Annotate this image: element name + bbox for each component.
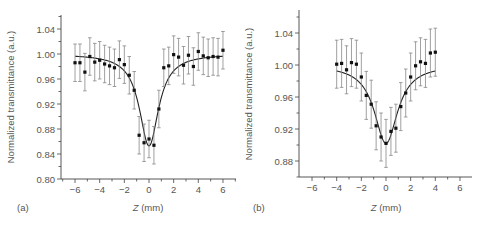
data-point xyxy=(157,90,161,128)
marker xyxy=(147,137,150,140)
marker xyxy=(157,107,160,110)
data-point xyxy=(98,42,102,80)
marker xyxy=(128,74,131,77)
data-point xyxy=(211,38,215,76)
data-point xyxy=(419,38,423,86)
y-tick-label: 0.88 xyxy=(37,124,56,135)
marker xyxy=(375,124,378,127)
x-tick-label: 2 xyxy=(171,184,176,195)
y-axis-title: Normalized transmittance (a.u.) xyxy=(243,28,254,161)
y-tick-label: 1.04 xyxy=(37,24,56,35)
marker xyxy=(335,63,338,66)
data-point xyxy=(409,53,413,101)
data-point xyxy=(88,38,92,76)
data-point xyxy=(132,72,136,110)
marker xyxy=(365,94,368,97)
data-point xyxy=(103,45,107,83)
data-point xyxy=(167,47,171,85)
y-tick-label: 0.80 xyxy=(37,174,56,185)
data-point xyxy=(113,49,117,87)
data-point xyxy=(389,107,393,155)
y-tick-label: 0.96 xyxy=(37,74,56,85)
panel-label: (b) xyxy=(253,202,265,213)
data-point xyxy=(162,49,166,87)
marker xyxy=(162,66,165,69)
marker xyxy=(78,61,81,64)
data-point xyxy=(182,47,186,85)
data-point xyxy=(206,39,210,77)
x-tick-label: 2 xyxy=(408,182,413,193)
data-point xyxy=(424,39,428,87)
x-tick-label: −6 xyxy=(307,182,318,193)
marker xyxy=(118,58,121,61)
data-point xyxy=(404,69,408,117)
x-tick-label: −4 xyxy=(331,182,342,193)
marker xyxy=(419,60,422,63)
marker xyxy=(409,75,412,78)
data-point xyxy=(399,83,403,131)
marker xyxy=(103,62,106,65)
x-axis-title: Z (mm) xyxy=(370,202,402,213)
y-tick-label: 0.88 xyxy=(275,156,294,167)
y-tick-label: 0.96 xyxy=(275,92,294,103)
figure: −6−4−202460.800.840.880.920.961.001.04No… xyxy=(0,0,484,225)
marker xyxy=(152,144,155,147)
chart-panel-b: −6−4−202460.880.920.961.001.04Normalized… xyxy=(243,10,472,213)
marker xyxy=(370,103,373,106)
marker xyxy=(212,55,215,58)
data-point xyxy=(379,113,383,161)
x-axis-title: Z (mm) xyxy=(132,202,164,213)
marker xyxy=(389,130,392,133)
data-point xyxy=(83,53,87,91)
data-point xyxy=(108,47,112,85)
marker xyxy=(404,91,407,94)
marker xyxy=(360,75,363,78)
marker xyxy=(108,64,111,67)
x-tick-label: −4 xyxy=(94,184,105,195)
data-point xyxy=(137,117,141,155)
marker xyxy=(138,134,141,137)
data-point xyxy=(142,124,146,162)
x-tick-label: 0 xyxy=(383,182,388,193)
marker xyxy=(88,55,91,58)
marker xyxy=(172,53,175,56)
x-tick-label: −2 xyxy=(356,182,367,193)
marker xyxy=(414,64,417,67)
data-point xyxy=(127,57,131,95)
data-point xyxy=(364,71,368,119)
data-point xyxy=(340,39,344,87)
data-point xyxy=(118,41,122,79)
marker xyxy=(379,135,382,138)
marker xyxy=(73,61,76,64)
marker xyxy=(434,51,437,54)
marker xyxy=(197,50,200,53)
x-tick-label: 6 xyxy=(220,184,225,195)
x-tick-label: 6 xyxy=(457,182,462,193)
data-point xyxy=(73,44,77,82)
y-tick-label: 1.04 xyxy=(275,28,294,39)
data-point xyxy=(384,119,388,167)
x-tick-label: 4 xyxy=(433,182,438,193)
panel-label: (a) xyxy=(17,202,29,213)
marker xyxy=(399,105,402,108)
marker xyxy=(98,59,101,62)
data-point xyxy=(197,33,201,71)
marker xyxy=(216,56,219,59)
marker xyxy=(83,71,86,74)
data-point xyxy=(187,37,191,75)
x-tick-label: −2 xyxy=(119,184,130,195)
data-point xyxy=(93,43,97,81)
data-point xyxy=(369,80,373,128)
marker xyxy=(93,61,96,64)
x-tick-label: 4 xyxy=(196,184,201,195)
marker xyxy=(113,66,116,69)
y-tick-label: 0.92 xyxy=(275,124,294,135)
data-point xyxy=(335,40,339,88)
marker xyxy=(345,68,348,71)
data-point xyxy=(201,37,205,75)
data-point xyxy=(350,39,354,87)
y-tick-label: 0.84 xyxy=(37,149,56,160)
y-tick-label: 1.00 xyxy=(37,49,56,60)
data-point xyxy=(192,48,196,86)
marker xyxy=(167,64,170,67)
